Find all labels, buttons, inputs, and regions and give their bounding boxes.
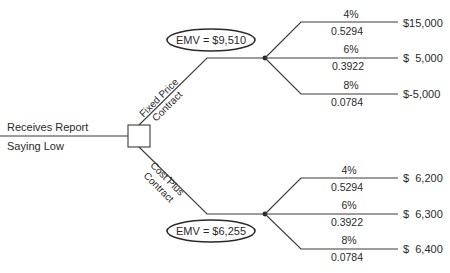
- root-label-line1: Receives Report: [7, 121, 88, 133]
- emv-cost-plus-text: EMV = $6,255: [176, 225, 246, 237]
- prob-fixed-8: 0.0784: [331, 96, 363, 108]
- decision-node-square: [128, 125, 150, 147]
- branch-cost-plus: Cost Plus Contract EMV = $6,255 4% 0.529…: [139, 147, 443, 263]
- emv-fixed-text: EMV = $9,510: [176, 34, 246, 46]
- root-branch: Receives Report Saying Low: [0, 121, 128, 152]
- prob-cost-4: 0.5294: [331, 181, 363, 193]
- rate-fixed-4: 4%: [343, 8, 358, 20]
- payoff-cost-8: $ 6,400: [403, 243, 443, 255]
- payoff-fixed-8: $-5,000: [403, 88, 440, 100]
- rate-cost-4: 4%: [341, 164, 356, 176]
- root-label-line2: Saying Low: [7, 140, 64, 152]
- rate-cost-8: 8%: [341, 234, 356, 246]
- prob-cost-6: 0.3922: [331, 216, 363, 228]
- branch-fixed-price: Fixed Price Contract EMV = $9,510 4% 0.5…: [137, 8, 443, 128]
- rate-fixed-8: 8%: [343, 79, 358, 91]
- rate-fixed-6: 6%: [343, 43, 358, 55]
- payoff-fixed-4: $15,000: [403, 17, 443, 29]
- prob-fixed-4: 0.5294: [331, 25, 363, 37]
- rate-cost-6: 6%: [341, 199, 356, 211]
- prob-fixed-6: 0.3922: [332, 60, 364, 72]
- payoff-cost-6: $ 6,300: [403, 208, 443, 220]
- payoff-cost-4: $ 6,200: [403, 172, 443, 184]
- prob-cost-8: 0.0784: [331, 251, 363, 263]
- cost-plus-label: Cost Plus Contract: [140, 160, 187, 207]
- payoff-fixed-6: $ 5,000: [403, 52, 443, 64]
- decision-tree-diagram: Receives Report Saying Low Fixed Price C…: [0, 0, 450, 273]
